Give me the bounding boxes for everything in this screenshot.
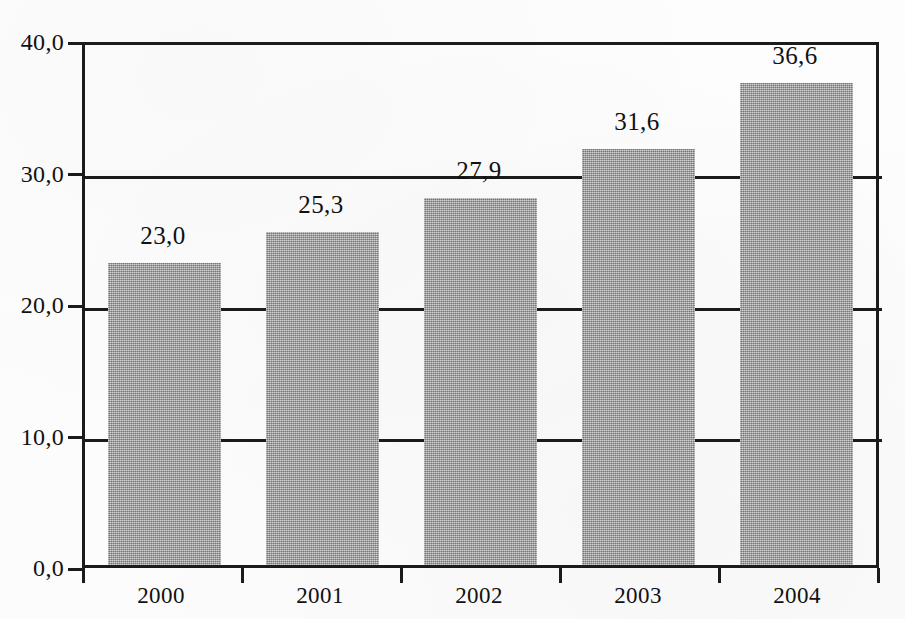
plot-area bbox=[82, 42, 879, 568]
y-tick-20 bbox=[68, 305, 85, 308]
bar-2003[interactable] bbox=[582, 149, 695, 565]
bar-chart-figure: 40,0 30,0 20,0 10,0 0,0 23,0 25,3 27,9 3… bbox=[0, 0, 905, 619]
y-axis-label-40: 40,0 bbox=[21, 29, 64, 56]
y-tick-30 bbox=[68, 173, 85, 176]
x-axis-label-2004: 2004 bbox=[773, 583, 821, 609]
y-axis-label-0: 0,0 bbox=[33, 555, 64, 582]
y-axis-label-group: 40,0 30,0 20,0 10,0 0,0 bbox=[0, 0, 72, 619]
x-axis-label-2000: 2000 bbox=[137, 583, 185, 609]
bar-2000[interactable] bbox=[108, 263, 221, 565]
bar-2001[interactable] bbox=[266, 232, 379, 565]
y-tick-40 bbox=[68, 42, 85, 45]
value-label-2002: 27,9 bbox=[456, 157, 501, 185]
x-axis-label-2002: 2002 bbox=[455, 583, 503, 609]
value-label-2001: 25,3 bbox=[298, 191, 343, 219]
x-tick-boundary-1 bbox=[241, 568, 244, 583]
x-tick-boundary-5 bbox=[877, 568, 880, 583]
x-axis-label-2003: 2003 bbox=[614, 583, 662, 609]
x-axis-label-2001: 2001 bbox=[296, 583, 344, 609]
value-label-2000: 23,0 bbox=[140, 222, 185, 250]
x-tick-boundary-3 bbox=[559, 568, 562, 583]
value-label-2003: 31,6 bbox=[614, 108, 659, 136]
y-tick-10 bbox=[68, 436, 85, 439]
x-tick-boundary-2 bbox=[400, 568, 403, 583]
value-label-2004: 36,6 bbox=[772, 42, 817, 70]
x-tick-boundary-4 bbox=[718, 568, 721, 583]
y-axis-label-10: 10,0 bbox=[21, 423, 64, 450]
bar-2004[interactable] bbox=[740, 83, 853, 565]
bar-2002[interactable] bbox=[424, 198, 537, 565]
y-axis-label-20: 20,0 bbox=[21, 292, 64, 319]
x-tick-boundary-0 bbox=[82, 568, 85, 583]
y-axis-label-30: 30,0 bbox=[21, 160, 64, 187]
